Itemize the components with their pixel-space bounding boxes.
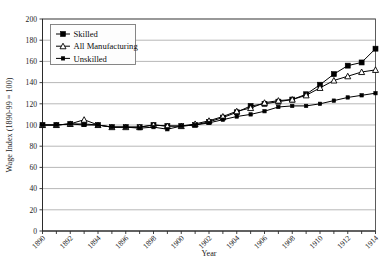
legend-marker-skilled-icon [61, 32, 66, 37]
y-tick-label-180: 180 [26, 36, 38, 45]
datapoint-2-1911 [332, 99, 335, 102]
datapoint-2-1908 [291, 104, 294, 107]
wage-index-line-chart: 0204060801001201401601802001890189218941… [0, 0, 391, 266]
y-tick-label-120: 120 [26, 100, 38, 109]
y-axis-title: Wage Index (1890-99 = 100) [5, 77, 14, 172]
datapoint-2-1891 [55, 123, 58, 126]
datapoint-2-1910 [318, 102, 321, 105]
datapoint-2-1904 [235, 115, 238, 118]
x-tick-label-1906: 1906 [252, 233, 269, 250]
series-all-manufacturing [40, 67, 379, 130]
datapoint-2-1907 [277, 105, 280, 108]
datapoint-2-1896 [124, 125, 127, 128]
y-tick-label-160: 160 [26, 57, 38, 66]
legend-label-all-manufacturing: All Manufacturing [74, 41, 139, 51]
figure-container: 0204060801001201401601802001890189218941… [0, 0, 391, 266]
datapoint-2-1906 [263, 110, 266, 113]
x-tick-label-1910: 1910 [308, 233, 325, 250]
chart-legend: SkilledAll ManufacturingUnskilled [51, 25, 139, 65]
datapoint-0-1914 [373, 46, 378, 51]
datapoint-2-1902 [207, 121, 210, 124]
x-tick-label-1908: 1908 [280, 233, 297, 250]
datapoint-2-1897 [138, 126, 141, 129]
y-tick-label-80: 80 [29, 142, 37, 151]
datapoint-1-1893 [81, 117, 87, 123]
datapoint-2-1901 [193, 123, 196, 126]
y-tick-label-40: 40 [29, 184, 37, 193]
y-tick-label-140: 140 [26, 78, 38, 87]
datapoint-2-1892 [69, 122, 72, 125]
datapoint-2-1914 [374, 92, 377, 95]
datapoint-2-1900 [180, 124, 183, 127]
x-tick-label-1894: 1894 [86, 233, 103, 250]
y-tick-label-20: 20 [29, 206, 37, 215]
datapoint-2-1895 [110, 125, 113, 128]
x-tick-label-1900: 1900 [169, 233, 186, 250]
datapoint-2-1903 [221, 118, 224, 121]
datapoint-2-1890 [41, 123, 44, 126]
datapoint-2-1894 [96, 123, 99, 126]
datapoint-2-1893 [82, 123, 85, 126]
x-tick-label-1890: 1890 [30, 233, 47, 250]
y-tick-label-200: 200 [26, 15, 38, 24]
datapoint-1-1914 [373, 67, 379, 73]
x-tick-label-1912: 1912 [335, 233, 352, 250]
x-tick-label-1898: 1898 [141, 233, 158, 250]
y-tick-label-0: 0 [33, 227, 37, 236]
datapoint-2-1898 [152, 125, 155, 128]
datapoint-0-1911 [331, 72, 336, 77]
datapoint-2-1913 [360, 94, 363, 97]
datapoint-0-1913 [359, 60, 364, 65]
x-tick-label-1914: 1914 [363, 233, 380, 250]
x-tick-label-1896: 1896 [113, 233, 130, 250]
legend-marker-unskilled-icon [61, 57, 64, 60]
x-axis-title: Year [201, 249, 216, 258]
datapoint-2-1912 [346, 96, 349, 99]
datapoint-2-1905 [249, 113, 252, 116]
datapoint-2-1909 [304, 104, 307, 107]
legend-label-unskilled: Unskilled [74, 54, 108, 64]
x-tick-label-1892: 1892 [58, 233, 75, 250]
y-tick-label-100: 100 [26, 121, 38, 130]
datapoint-0-1912 [345, 63, 350, 68]
legend-label-skilled: Skilled [74, 29, 99, 39]
y-tick-label-60: 60 [29, 163, 37, 172]
datapoint-2-1899 [166, 128, 169, 131]
x-tick-label-1904: 1904 [224, 233, 241, 250]
